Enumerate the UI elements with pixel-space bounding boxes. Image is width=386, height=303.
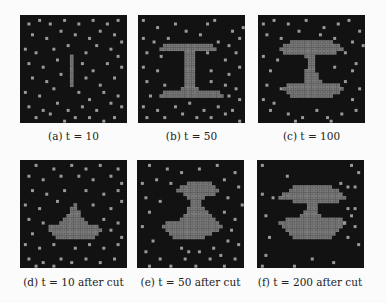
free-particle (206, 23, 209, 26)
body-cell-dot (320, 95, 322, 97)
body-cell-dot (50, 226, 52, 228)
body-cell-dot (337, 48, 339, 50)
free-particle (109, 207, 112, 210)
body-cell-dot (71, 56, 73, 58)
body-cell-dot (319, 186, 321, 188)
body-cell-dot (75, 229, 77, 231)
free-particle (227, 44, 230, 47)
body-cell-dot (315, 219, 317, 221)
body-cell-dot (313, 88, 315, 90)
body-cell-dot (189, 88, 191, 90)
body-cell-dot (295, 41, 297, 43)
body-cell-dot (297, 222, 299, 224)
body-cell-dot (327, 92, 329, 94)
body-cell-dot (64, 219, 66, 221)
body-cell-dot (216, 190, 218, 192)
free-particle (42, 222, 45, 225)
body-cell-dot (308, 208, 310, 210)
body-cell-dot (312, 204, 314, 206)
free-particle (226, 240, 229, 243)
body-cell-dot (181, 190, 183, 192)
body-cell-dot (71, 226, 73, 228)
body-cell-dot (185, 45, 187, 47)
body-cell-dot (170, 229, 172, 231)
body-cell-dot (291, 52, 293, 54)
body-cell-dot (188, 229, 190, 231)
body-cell-dot (326, 237, 328, 239)
free-particle (262, 55, 265, 58)
body-cell-dot (320, 88, 322, 90)
body-cell-dot (192, 215, 194, 217)
free-particle (357, 243, 360, 246)
free-particle (159, 258, 162, 261)
free-particle (148, 164, 151, 167)
body-cell-dot (333, 229, 335, 231)
body-cell-dot (174, 229, 176, 231)
body-cell-dot (188, 226, 190, 228)
free-particle (120, 66, 123, 69)
body-cell-dot (60, 233, 62, 235)
body-cell-dot (182, 88, 184, 90)
body-cell-dot (320, 81, 322, 83)
body-cell-dot (288, 92, 290, 94)
free-particle (160, 55, 163, 58)
body-cell-dot (323, 52, 325, 54)
body-cell-dot (309, 56, 311, 58)
body-cell-dot (334, 92, 336, 94)
body-cell-dot (71, 81, 73, 83)
body-cell-dot (78, 219, 80, 221)
caption-c: (c) t = 100 (258, 130, 365, 142)
free-particle (67, 109, 70, 112)
body-cell-dot (308, 219, 310, 221)
free-particle (56, 200, 59, 203)
body-cell-dot (330, 88, 332, 90)
body-cell-dot (192, 204, 194, 206)
body-cell-dot (315, 229, 317, 231)
body-cell-dot (320, 48, 322, 50)
body-cell-dot (213, 193, 215, 195)
free-particle (42, 261, 45, 264)
body-cell-dot (313, 63, 315, 65)
body-cell-dot (174, 222, 176, 224)
body-cell-dot (337, 84, 339, 86)
body-cell-dot (193, 88, 195, 90)
body-cell-dot (323, 95, 325, 97)
body-cell-dot (333, 219, 335, 221)
body-cell-dot (304, 190, 306, 192)
body-cell-dot (168, 95, 170, 97)
body-cell-dot (192, 186, 194, 188)
free-particle (287, 23, 290, 26)
body-cell-dot (333, 193, 335, 195)
body-cell-dot (322, 237, 324, 239)
body-cell-dot (330, 45, 332, 47)
body-cell-dot (333, 190, 335, 192)
free-particle (223, 178, 226, 181)
body-cell-dot (326, 219, 328, 221)
body-cell-dot (178, 48, 180, 50)
body-cell-dot (193, 74, 195, 76)
body-cell-dot (326, 186, 328, 188)
body-cell-dot (336, 229, 338, 231)
free-particle (238, 120, 241, 123)
body-cell-dot (206, 183, 208, 185)
body-cell-dot (192, 183, 194, 185)
body-cell-dot (340, 222, 342, 224)
free-particle (180, 171, 183, 174)
free-particle (262, 98, 265, 101)
body-cell-dot (294, 229, 296, 231)
body-cell-dot (301, 226, 303, 228)
body-cell-dot (164, 95, 166, 97)
body-cell-dot (206, 226, 208, 228)
body-cell-dot (67, 222, 69, 224)
free-particle (156, 109, 159, 112)
body-cell-dot (304, 222, 306, 224)
body-cell-dot (209, 193, 211, 195)
body-cell-dot (319, 201, 321, 203)
body-cell-dot (96, 233, 98, 235)
body-cell-dot (67, 233, 69, 235)
free-particle (293, 265, 296, 268)
body-cell-dot (67, 219, 69, 221)
body-cell-dot (316, 95, 318, 97)
free-particle (85, 168, 88, 171)
free-particle (106, 62, 109, 65)
